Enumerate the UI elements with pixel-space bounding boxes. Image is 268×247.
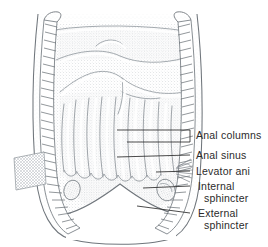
label-external-sphincter: External sphincter: [198, 208, 248, 231]
label-internal-sphincter-line2: sphincter: [198, 193, 248, 205]
label-external-sphincter-line2: sphincter: [198, 220, 248, 232]
label-levator-ani-text: Levator ani: [196, 165, 250, 177]
label-external-sphincter-line1: External: [198, 207, 238, 219]
label-anal-columns: Anal columns: [196, 130, 261, 142]
label-internal-sphincter-line1: Internal: [198, 180, 235, 192]
levator-ani-cut-left: [14, 152, 46, 190]
anatomy-figure: Anal columns Anal sinus Levator ani Inte…: [0, 0, 268, 247]
label-anal-sinus-text: Anal sinus: [196, 149, 246, 161]
label-levator-ani: Levator ani: [196, 166, 250, 178]
label-internal-sphincter: Internal sphincter: [198, 181, 248, 204]
label-anal-sinus: Anal sinus: [196, 150, 246, 162]
label-anal-columns-text: Anal columns: [196, 129, 261, 141]
